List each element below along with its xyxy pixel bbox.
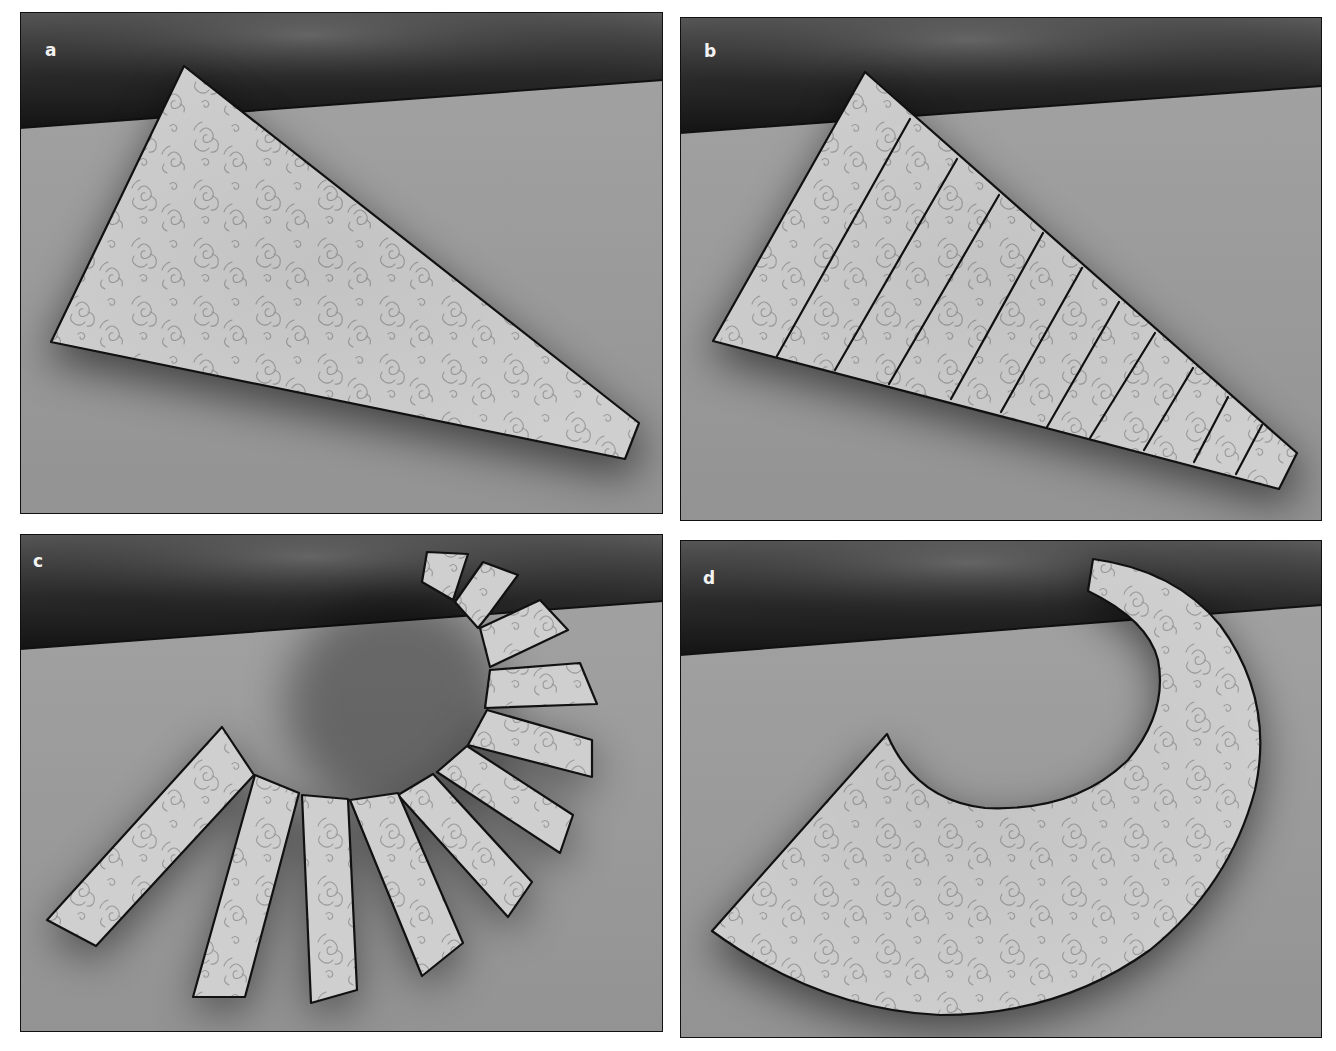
strip (485, 663, 597, 708)
figure-canvas: a b (0, 0, 1336, 1051)
panel-label-d: d (703, 568, 715, 588)
panel-label-b: b (704, 41, 716, 61)
panel-label-c: c (33, 551, 43, 571)
panel-d: d (680, 540, 1322, 1038)
panel-b: b (680, 17, 1322, 521)
panel-a: a (20, 12, 663, 514)
strip (302, 795, 357, 1003)
panel-label-a: a (45, 40, 56, 60)
panel-c: c (20, 534, 663, 1032)
